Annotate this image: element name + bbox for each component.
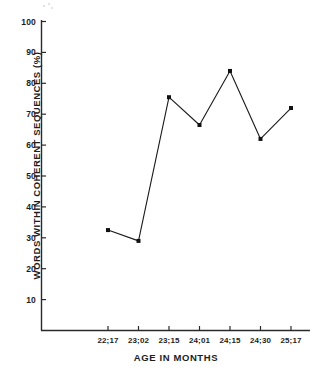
x-axis-tick-labels: 22;1723;0223;1524;0124;1524;3025;17 [0,0,312,371]
x-axis-title: AGE IN MONTHS [40,352,312,363]
chart-figure: WORDS WITHIN COHERENT SEQUENCES (%) 1020… [0,0,312,371]
x-axis-tick-label: 25;17 [271,336,311,345]
